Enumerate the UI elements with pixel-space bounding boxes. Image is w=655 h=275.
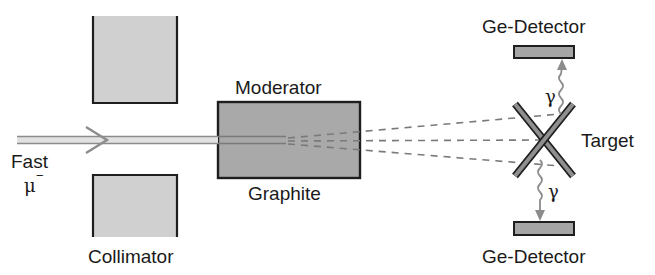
gamma-up-arrow-icon — [557, 59, 567, 70]
collimator-bottom — [93, 175, 177, 237]
moderator-block — [218, 102, 360, 178]
ge-detector-bottom — [514, 222, 574, 235]
gamma-top-label: γ — [545, 86, 556, 107]
ge-detector-top — [514, 46, 574, 58]
ge-detector-top-label: Ge-Detector — [482, 16, 586, 37]
collimator-top — [93, 16, 177, 103]
ge-detector-bottom-label: Ge-Detector — [482, 246, 586, 267]
gamma-ray-up — [557, 59, 567, 114]
gamma-bottom-label: γ — [548, 181, 559, 202]
gamma-ray-down — [535, 160, 545, 221]
collimator-label: Collimator — [88, 246, 174, 267]
gamma-down-arrow-icon — [535, 210, 545, 221]
beam-label-charge: − — [36, 168, 44, 183]
beam-label-muon: μ — [24, 175, 36, 196]
graphite-label: Graphite — [248, 183, 321, 204]
diagram-canvas: Fast μ − Moderator Graphite Collimator T… — [0, 0, 655, 275]
moderator-label: Moderator — [235, 77, 322, 98]
target-label: Target — [581, 130, 635, 151]
diagram-svg: Fast μ − Moderator Graphite Collimator T… — [0, 0, 655, 275]
